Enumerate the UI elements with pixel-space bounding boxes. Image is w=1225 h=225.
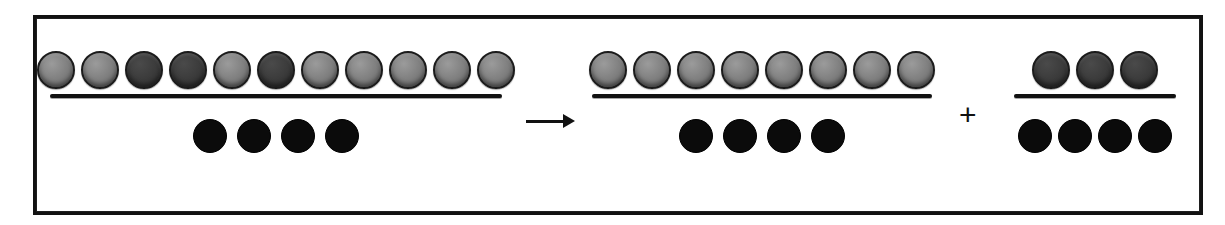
fraction-bar — [1014, 94, 1176, 98]
numerator-chip — [169, 51, 207, 89]
arrow-head — [563, 114, 575, 128]
denominator-chip — [679, 119, 713, 153]
numerator-chip — [765, 51, 803, 89]
numerator-chip — [345, 51, 383, 89]
fraction-term-3 — [1014, 46, 1176, 160]
denominator-chip — [723, 119, 757, 153]
numerator-chip — [433, 51, 471, 89]
fraction-term-1 — [50, 46, 502, 160]
numerator-chip — [1076, 51, 1114, 89]
denominator-row-term-2 — [679, 112, 845, 160]
denominator-chip — [237, 119, 271, 153]
numerator-chip — [125, 51, 163, 89]
numerator-chip — [809, 51, 847, 89]
figure-canvas: + — [0, 0, 1225, 225]
fraction-bar — [592, 94, 932, 98]
numerator-chip — [1032, 51, 1070, 89]
denominator-row-term-3 — [1018, 112, 1172, 160]
denominator-chip — [767, 119, 801, 153]
denominator-chip — [1138, 119, 1172, 153]
arrow-shaft — [526, 120, 564, 123]
numerator-chip — [677, 51, 715, 89]
numerator-chip — [389, 51, 427, 89]
plus-operator: + — [959, 100, 977, 130]
numerator-chip — [81, 51, 119, 89]
numerator-chip — [589, 51, 627, 89]
denominator-chip — [1098, 119, 1132, 153]
numerator-chip — [301, 51, 339, 89]
denominator-chip — [1018, 119, 1052, 153]
numerator-row-term-3 — [1032, 46, 1158, 94]
denominator-row-term-1 — [193, 112, 359, 160]
numerator-chip — [477, 51, 515, 89]
denominator-chip — [281, 119, 315, 153]
fraction-bar — [50, 94, 502, 98]
numerator-chip — [721, 51, 759, 89]
numerator-chip — [853, 51, 891, 89]
numerator-chip — [213, 51, 251, 89]
numerator-chip — [257, 51, 295, 89]
right-arrow-icon — [526, 114, 575, 128]
fraction-term-2 — [592, 46, 932, 160]
denominator-chip — [193, 119, 227, 153]
numerator-chip — [1120, 51, 1158, 89]
denominator-chip — [1058, 119, 1092, 153]
numerator-chip — [37, 51, 75, 89]
numerator-row-term-2 — [589, 46, 935, 94]
denominator-chip — [811, 119, 845, 153]
denominator-chip — [325, 119, 359, 153]
numerator-chip — [897, 51, 935, 89]
numerator-row-term-1 — [37, 46, 515, 94]
numerator-chip — [633, 51, 671, 89]
